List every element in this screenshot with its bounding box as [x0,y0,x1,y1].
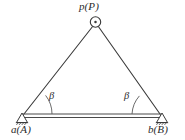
triangulation-diagram [0,0,185,140]
angle-label-right-beta: β [124,91,129,102]
apex-station-center-dot-icon [94,21,97,24]
apex-point-label: p(P) [79,1,99,12]
angle-arc-right [132,96,139,114]
edge-left-leg [24,26,93,114]
left-station-label: a(A) [11,124,31,135]
right-station-label: b(B) [148,124,168,135]
figure-root: p(P) a(A) b(B) β β [0,0,185,140]
angle-label-left-beta: β [49,91,54,102]
